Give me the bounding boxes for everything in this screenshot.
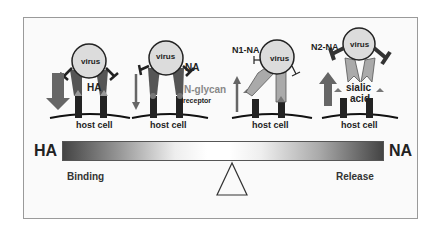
arrow-down-thin-icon [132, 102, 140, 110]
host-membrane-1 [50, 114, 130, 118]
arrow-up-large-icon [319, 72, 337, 106]
diagram-graphics [0, 0, 442, 232]
virus-label-2: virus [156, 52, 175, 61]
panel-1-graphics [46, 44, 130, 118]
n-glycan-label: N-glycan [184, 84, 226, 95]
host-cell-label-2: host cell [150, 120, 187, 130]
host-cell-label-3: host cell [252, 120, 289, 130]
virus-label-4: virus [350, 40, 369, 49]
ha-scale-label: HA [34, 142, 57, 160]
host-cell-label-4: host cell [341, 120, 378, 130]
virus-label-3: virus [270, 54, 289, 63]
release-caption: Release [336, 171, 374, 182]
receptor-stem [75, 96, 82, 118]
n2-na-label: N2-NA [311, 42, 339, 52]
acid-label: acid [350, 93, 370, 104]
na-scale-label: NA [389, 142, 412, 160]
ha-na-gradient-bar [62, 141, 384, 161]
arrow-up-thin-icon [233, 76, 241, 84]
ha-label: HA [87, 82, 101, 93]
n1-na-label: N1-NA [232, 45, 260, 55]
host-cell-label-1: host cell [76, 120, 113, 130]
sialic-label: sialic [346, 82, 371, 93]
receptor-stem [100, 96, 107, 118]
na-label: NA [185, 62, 199, 73]
fulcrum-triangle-icon [217, 163, 247, 195]
receptor-label: receptor [183, 97, 211, 104]
virus-label-1: virus [81, 57, 100, 66]
binding-caption: Binding [67, 171, 104, 182]
